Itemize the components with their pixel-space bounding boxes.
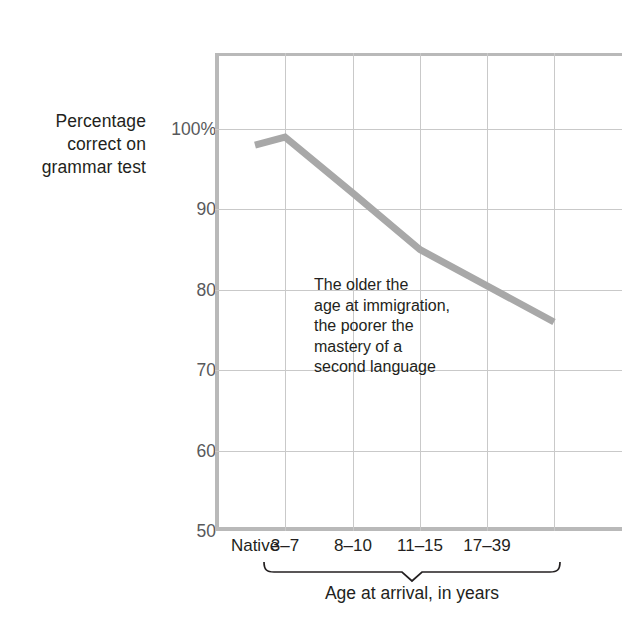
x-tick-label-3-7: 3–7 — [271, 536, 299, 556]
x-axis-brace — [262, 561, 562, 583]
y-axis-title-line-1: Percentage — [6, 110, 146, 133]
x-tick-label-8-10: 8–10 — [334, 536, 372, 556]
chart-figure: Percentage correct on grammar test 100% … — [0, 0, 638, 630]
y-tick-label-80: 80 — [148, 280, 216, 301]
x-tick-label-17-39: 17–39 — [463, 536, 510, 556]
brace-path — [264, 562, 560, 581]
y-tick-label-90: 90 — [148, 199, 216, 220]
x-axis-title: Age at arrival, in years — [262, 583, 562, 604]
y-tick-label-50: 50 — [148, 521, 216, 542]
y-axis-title-line-3: grammar test — [6, 156, 146, 179]
annotation-line-3: the poorer the — [314, 316, 494, 337]
plot-area: The older the age at immigration, the po… — [215, 53, 622, 531]
annotation-line-4: mastery of a — [314, 337, 494, 358]
y-axis-title-line-2: correct on — [6, 133, 146, 156]
x-tick-label-11-15: 11–15 — [397, 536, 443, 556]
y-tick-label-60: 60 — [148, 441, 216, 462]
y-tick-label-70: 70 — [148, 360, 216, 381]
annotation-line-5: second language — [314, 357, 494, 378]
y-tick-label-100: 100% — [148, 119, 216, 140]
annotation-line-1: The older the — [314, 275, 494, 296]
chart-annotation: The older the age at immigration, the po… — [314, 275, 494, 378]
y-axis-title: Percentage correct on grammar test — [6, 110, 146, 179]
annotation-line-2: age at immigration, — [314, 296, 494, 317]
